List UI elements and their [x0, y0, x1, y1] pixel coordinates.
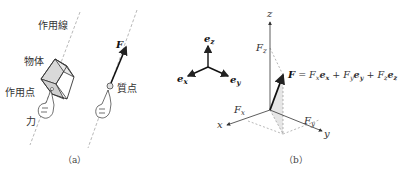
basis-ex-arrow [188, 67, 208, 76]
label-body: 物体 [24, 55, 44, 67]
force-equation: F = Fxex + Fyey + Fzez [287, 69, 398, 82]
hand-icon-right [96, 90, 111, 118]
label-particle: 質点 [117, 82, 137, 94]
label-ez: ez [204, 33, 215, 46]
label-line-of-action: 作用線 [38, 19, 68, 31]
label-ex: ex [177, 73, 188, 86]
force-diagram: 作用線 物体 作用点 力 F 質点 （a） [0, 0, 398, 176]
label-point-of-action: 作用点 [5, 87, 35, 98]
particle-dot [107, 83, 113, 89]
panel-a: 作用線 物体 作用点 力 F 質点 （a） [5, 10, 137, 165]
label-force-vector: F [115, 39, 124, 50]
label-Fx: Fx [233, 104, 245, 117]
basis-vectors: ez ex ey [177, 33, 241, 87]
caption-a: （a） [63, 155, 86, 165]
label-force: 力 [26, 115, 36, 127]
panel-b: z x y Fz Fx Fy F = Fxex + Fyey + Fzez （b… [217, 8, 398, 165]
label-Fz: Fz [255, 42, 267, 55]
body-cube [41, 59, 74, 99]
label-y-axis: y [323, 128, 330, 139]
label-ey: ey [230, 74, 241, 87]
caption-b: （b） [284, 155, 308, 165]
label-z-axis: z [266, 8, 273, 19]
hand-icon-left [38, 90, 54, 118]
label-x-axis: x [217, 119, 223, 130]
basis-ey-arrow [208, 67, 228, 76]
force-vector-arrow [111, 47, 126, 83]
